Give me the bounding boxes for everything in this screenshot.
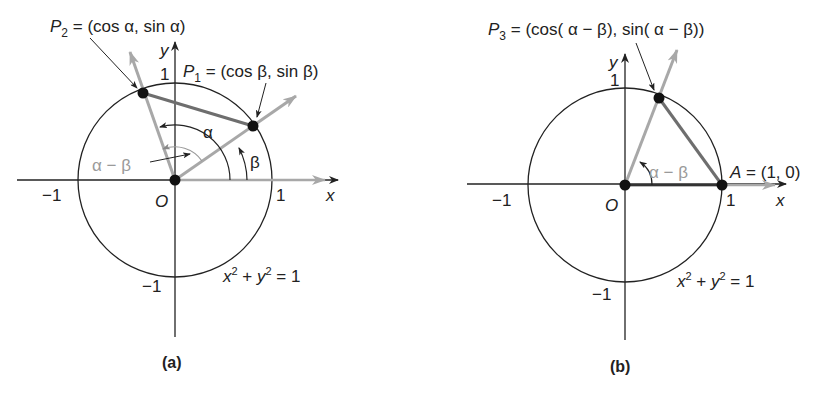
panel-a: P2 = (cos α, sin α) P1 = (cos β, sin β) …	[17, 17, 338, 371]
x-tick-neg1: −1	[42, 186, 61, 205]
point-a	[717, 180, 728, 191]
caption-b: (b)	[610, 358, 630, 375]
panel-b: P3 = (cos( α − β), sin( α − β)) y x 1 −1…	[467, 20, 800, 375]
x-axis-label: x	[325, 186, 335, 205]
y-tick-neg1: −1	[592, 285, 611, 304]
chord-p1-p2	[143, 93, 253, 126]
x-axis-label: x	[775, 191, 785, 210]
point-p3	[654, 93, 665, 104]
y-tick-neg1: −1	[142, 277, 161, 296]
circle-equation: x2 + y2 = 1	[676, 270, 754, 291]
origin-label: O	[155, 192, 168, 211]
beta-arc	[239, 148, 247, 180]
p1-label: P1 = (cos β, sin β)	[183, 62, 318, 85]
origin-label: O	[605, 196, 618, 215]
origin-point	[170, 175, 181, 186]
p1-pointer	[257, 83, 266, 117]
y-axis-label: y	[608, 53, 619, 72]
x-tick-neg1: −1	[492, 191, 511, 210]
alpha-arc	[160, 125, 230, 180]
circle-equation: x2 + y2 = 1	[222, 265, 300, 286]
diagram-canvas: P2 = (cos α, sin α) P1 = (cos β, sin β) …	[0, 0, 836, 402]
alpha-minus-beta-label: α − β	[92, 156, 131, 175]
x-tick-1: 1	[276, 186, 285, 205]
y-axis-label: y	[159, 41, 170, 60]
p3-pointer	[636, 43, 654, 90]
beta-label: β	[250, 153, 260, 172]
y-tick-1: 1	[160, 65, 169, 84]
point-p2	[138, 88, 149, 99]
alpha-minus-beta-pointer	[150, 154, 190, 162]
x-tick-1: 1	[726, 191, 735, 210]
p2-label: P2 = (cos α, sin α)	[50, 17, 185, 40]
alpha-label: α	[203, 123, 213, 142]
a-label: A = (1, 0)	[729, 163, 800, 182]
origin-point	[620, 180, 631, 191]
point-p1	[248, 121, 259, 132]
p2-pointer	[90, 38, 137, 88]
alpha-minus-beta-label: α − β	[649, 163, 688, 182]
y-tick-1: 1	[610, 71, 619, 90]
caption-a: (a)	[162, 354, 182, 371]
p3-label: P3 = (cos( α − β), sin( α − β))	[488, 20, 704, 43]
